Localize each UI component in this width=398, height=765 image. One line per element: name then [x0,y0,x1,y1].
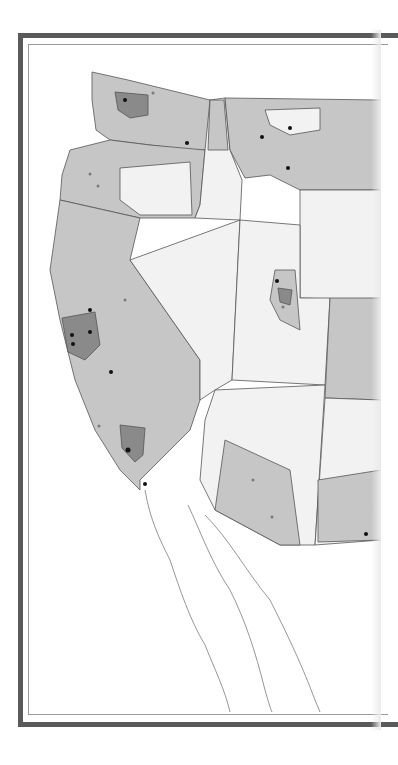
city-dot [143,482,147,486]
city-dot [70,333,74,337]
city-dot [89,173,92,176]
city-dot [123,98,127,102]
region-wyoming [300,190,381,300]
city-dot [185,141,189,145]
city-dot [286,166,290,170]
city-dot [288,126,292,130]
page-edge-shadow [371,30,381,730]
city-dot [109,370,113,374]
city-dot [126,448,131,453]
region-washington [92,72,210,150]
city-dot [88,308,92,312]
city-dot [364,532,368,536]
region-idaho-north [208,100,228,150]
city-dot [71,342,75,346]
city-dot [97,185,100,188]
region-oregon-east [120,162,192,215]
city-dot [152,92,155,95]
state-shading [50,72,381,545]
city-dot [88,330,92,334]
city-dot [271,516,274,519]
city-dot [98,425,101,428]
city-dot [282,306,285,309]
city-dot [124,299,127,302]
city-dot [275,279,279,283]
city-dot [252,479,255,482]
city-dot [260,135,264,139]
